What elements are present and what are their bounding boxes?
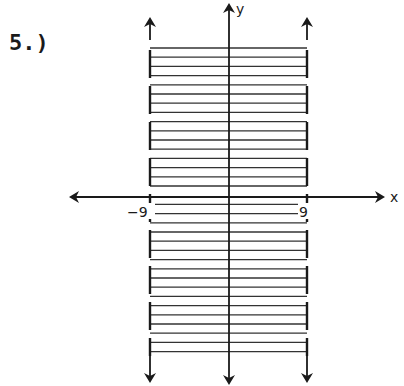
x-axis-label: x	[390, 189, 398, 205]
y-axis-label: y	[236, 1, 244, 17]
tick-label-9: 9	[299, 204, 308, 220]
inequality-graph: y x −9 9	[0, 0, 404, 386]
tick-label-neg9: −9	[127, 204, 148, 220]
